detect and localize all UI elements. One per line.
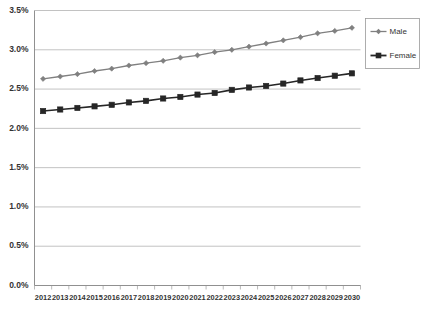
x-axis-tick-label: 2030 — [344, 293, 360, 302]
x-axis-tick-label: 2016 — [103, 293, 119, 302]
data-point-marker — [161, 96, 166, 101]
gridlines — [35, 11, 361, 286]
x-axis-tick-label: 2028 — [309, 293, 325, 302]
x-axis-tick-label: 2013 — [52, 293, 68, 302]
data-point-marker — [298, 78, 303, 83]
data-point-marker — [315, 31, 320, 36]
y-axis-tick-label: 1.0% — [9, 201, 29, 211]
data-point-marker — [281, 38, 286, 43]
x-axis-tick-label: 2022 — [206, 293, 222, 302]
data-point-marker — [40, 108, 45, 113]
series-male — [40, 25, 354, 81]
data-point-marker — [229, 87, 234, 92]
data-point-marker — [332, 28, 337, 33]
x-axis-tick-label: 2027 — [292, 293, 308, 302]
y-axis-tick-label: 3.5% — [9, 5, 29, 15]
x-axis-tick-label: 2015 — [86, 293, 102, 302]
data-point-marker — [92, 68, 97, 73]
x-axis-tick-label: 2025 — [258, 293, 274, 302]
data-point-marker — [178, 55, 183, 60]
data-point-marker — [92, 104, 97, 109]
x-axis-tick-label: 2019 — [155, 293, 171, 302]
series-female — [40, 71, 354, 114]
data-point-marker — [229, 47, 234, 52]
data-point-marker — [126, 63, 131, 68]
x-axis-tick-label: 2021 — [189, 293, 205, 302]
data-point-marker — [58, 107, 63, 112]
data-point-marker — [143, 98, 148, 103]
x-axis-tick-label: 2024 — [241, 293, 258, 302]
data-point-marker — [75, 72, 80, 77]
data-point-marker — [126, 100, 131, 105]
data-point-marker — [40, 76, 45, 81]
data-point-marker — [212, 90, 217, 95]
data-point-marker — [349, 71, 354, 76]
legend-label: Male — [390, 27, 408, 36]
axis-lines — [35, 11, 361, 286]
data-point-marker — [281, 81, 286, 86]
x-axis-tick-label: 2017 — [121, 293, 137, 302]
chart-legend: MaleFemale — [366, 19, 420, 69]
x-axis-tick-label: 2026 — [275, 293, 291, 302]
x-axis-tick-label: 2018 — [138, 293, 154, 302]
data-point-marker — [195, 92, 200, 97]
x-axis-tick-label: 2029 — [327, 293, 343, 302]
data-point-marker — [332, 73, 337, 78]
x-axis-tick-label: 2023 — [224, 293, 240, 302]
data-point-marker — [264, 41, 269, 46]
data-point-marker — [109, 102, 114, 107]
x-axis-tick-label: 2012 — [35, 293, 51, 302]
x-axis-tick-labels: 2012201320142015201620172018201920202021… — [35, 293, 360, 302]
data-point-marker — [349, 25, 354, 30]
y-axis-tick-label: 1.5% — [9, 162, 29, 172]
x-axis-tick-label: 2014 — [69, 293, 86, 302]
y-axis-tick-labels: 0.0%0.5%1.0%1.5%2.0%2.5%3.0%3.5% — [9, 5, 29, 290]
data-point-marker — [264, 83, 269, 88]
data-series — [40, 25, 354, 113]
line-chart: 0.0%0.5%1.0%1.5%2.0%2.5%3.0%3.5% 2012201… — [0, 0, 423, 313]
data-point-marker — [109, 66, 114, 71]
x-axis-tick-label: 2020 — [172, 293, 188, 302]
data-point-marker — [161, 58, 166, 63]
data-point-marker — [58, 74, 63, 79]
y-axis-tick-label: 2.0% — [9, 123, 29, 133]
y-axis-tick-label: 3.0% — [9, 44, 29, 54]
chart-container: 0.0%0.5%1.0%1.5%2.0%2.5%3.0%3.5% 2012201… — [0, 0, 423, 313]
data-point-marker — [75, 105, 80, 110]
x-axis-tick-marks — [35, 286, 361, 290]
y-axis-tick-label: 0.5% — [9, 240, 29, 250]
data-point-marker — [315, 75, 320, 80]
data-point-marker — [178, 94, 183, 99]
data-point-marker — [195, 53, 200, 58]
y-axis-tick-label: 0.0% — [9, 280, 29, 290]
data-point-marker — [143, 61, 148, 66]
data-point-marker — [298, 35, 303, 40]
legend-marker-square — [376, 53, 382, 59]
data-point-marker — [212, 50, 217, 55]
data-point-marker — [246, 44, 251, 49]
y-axis-tick-label: 2.5% — [9, 83, 29, 93]
data-point-marker — [246, 85, 251, 90]
legend-label: Female — [390, 51, 417, 60]
